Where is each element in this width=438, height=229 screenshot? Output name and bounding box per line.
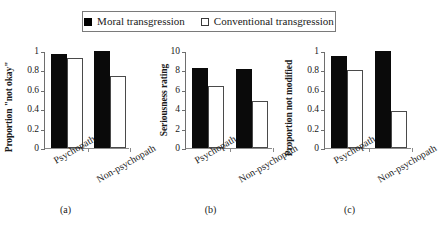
legend-entry-moral: Moral transgression <box>84 16 185 27</box>
chart-legend: Moral transgression Conventional transgr… <box>82 11 336 32</box>
x-tick-a-1 <box>130 148 131 152</box>
y-tick-label-a-5: 1 <box>34 47 39 57</box>
filled-square-icon <box>84 18 92 26</box>
y-tick-c-2 <box>321 110 325 111</box>
y-tick-label-a-4: 0.8 <box>27 67 39 77</box>
panel-caption-a: (a) <box>0 205 135 215</box>
y-tick-label-a-3: 0.6 <box>27 86 39 96</box>
y-tick-c-5 <box>321 52 325 53</box>
y-tick-label-c-4: 0.8 <box>307 67 319 77</box>
y-tick-label-a-2: 0.4 <box>27 105 39 115</box>
bar-b-conventional-non-psychopath <box>252 101 268 148</box>
bar-c-conventional-psychopath <box>347 70 363 148</box>
y-tick-b-5 <box>182 52 186 53</box>
y-tick-a-3 <box>41 91 45 92</box>
chart-panel-c: Proportion not modified 00.20.40.60.81 (… <box>279 44 418 229</box>
y-tick-a-1 <box>41 130 45 131</box>
open-square-icon <box>201 18 209 26</box>
y-tick-label-b-3: 6 <box>175 86 180 96</box>
y-tick-label-b-4: 8 <box>175 67 180 77</box>
bar-c-moral-psychopath <box>331 56 347 148</box>
bar-b-moral-psychopath <box>192 68 208 149</box>
y-tick-label-b-5: 10 <box>171 47 181 57</box>
x-tick-a-0 <box>88 148 89 152</box>
y-tick-label-b-0: 0 <box>175 144 180 154</box>
legend-label-conventional: Conventional transgression <box>214 16 334 27</box>
y-tick-a-4 <box>41 71 45 72</box>
y-tick-label-c-2: 0.4 <box>307 105 319 115</box>
y-tick-label-b-2: 4 <box>175 105 180 115</box>
y-tick-label-a-1: 0.2 <box>27 125 39 135</box>
y-tick-c-4 <box>321 71 325 72</box>
x-tick-c-0 <box>369 148 370 152</box>
x-category-label-c-non-psychopath: Non-psychopath <box>376 143 438 185</box>
y-tick-c-1 <box>321 130 325 131</box>
panel-caption-c: (c) <box>280 205 419 215</box>
panel-caption-b: (b) <box>141 205 280 215</box>
y-tick-c-3 <box>321 91 325 92</box>
y-tick-c-0 <box>321 149 325 150</box>
y-tick-b-4 <box>182 71 186 72</box>
y-axis-label-a: Proportion "not okay" <box>2 57 16 157</box>
chart-panel-a: Proportion "not okay" 00.20.40.60.81 (a)… <box>0 44 139 229</box>
y-tick-b-1 <box>182 130 186 131</box>
bar-a-moral-psychopath <box>51 54 67 148</box>
y-tick-a-2 <box>41 110 45 111</box>
y-tick-a-5 <box>41 52 45 53</box>
chart-panel-b: Seriousness rating 0246810 (b) Psychopat… <box>139 44 278 229</box>
y-tick-label-c-5: 1 <box>314 47 319 57</box>
y-axis-label-c: Proportion not modified <box>282 58 296 158</box>
legend-label-moral: Moral transgression <box>97 16 185 27</box>
y-tick-a-0 <box>41 149 45 150</box>
y-tick-label-a-0: 0 <box>34 144 39 154</box>
y-tick-b-3 <box>182 91 186 92</box>
bar-c-moral-non-psychopath <box>375 51 391 148</box>
y-tick-label-c-1: 0.2 <box>307 125 319 135</box>
y-tick-b-2 <box>182 110 186 111</box>
bar-a-moral-non-psychopath <box>94 51 110 148</box>
y-tick-b-0 <box>182 149 186 150</box>
x-tick-b-0 <box>230 148 231 152</box>
bar-a-conventional-psychopath <box>67 58 83 148</box>
x-tick-b-1 <box>273 148 274 152</box>
y-tick-label-b-1: 2 <box>175 125 180 135</box>
y-tick-label-c-0: 0 <box>314 144 319 154</box>
x-tick-c-1 <box>412 148 413 152</box>
y-tick-label-c-3: 0.6 <box>307 86 319 96</box>
bar-a-conventional-non-psychopath <box>110 76 126 148</box>
bar-b-moral-non-psychopath <box>236 69 252 148</box>
bar-c-conventional-non-psychopath <box>391 111 407 148</box>
legend-entry-conventional: Conventional transgression <box>201 16 334 27</box>
y-axis-label-b: Seriousness rating <box>157 50 171 150</box>
